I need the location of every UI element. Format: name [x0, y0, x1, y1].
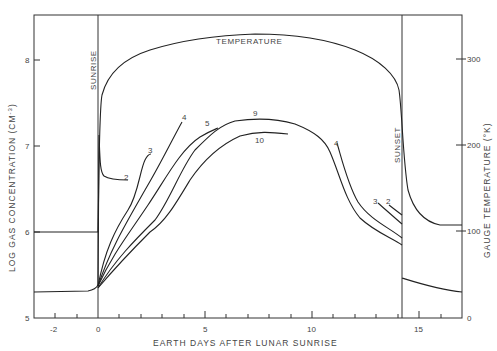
y-tick-label: 6	[25, 228, 30, 237]
curve-label-3: 3	[148, 146, 153, 155]
chart: 2 3 4 5 9 10 4 3 2 TEMPERATURE SUNRISE S…	[0, 0, 497, 351]
curve-label-5: 5	[205, 119, 210, 128]
x-axis-title: EARTH DAYS AFTER LUNAR SUNRISE	[153, 338, 338, 348]
gas-post-sunset	[402, 278, 462, 292]
y2-tick-label: 0	[467, 314, 472, 323]
y-left-axis-title: LOG GAS CONCENTRATION (CM-3)	[7, 103, 17, 272]
curve-label-4-sunset: 4	[334, 139, 339, 148]
y2-tick-label: 300	[467, 55, 481, 64]
y2-tick-label: 200	[467, 141, 481, 150]
gas-curve-10	[98, 132, 288, 288]
sunset-label: SUNSET	[393, 127, 402, 163]
temperature-label: TEMPERATURE	[216, 37, 282, 46]
y-tick-label: 7	[25, 142, 30, 151]
curve-label-2: 2	[124, 173, 129, 182]
x-tick-label: 0	[96, 325, 101, 334]
curve-label-4: 4	[182, 113, 187, 122]
y-left-ticks	[34, 60, 40, 232]
y-tick-label: 5	[25, 314, 30, 323]
x-tick-label: 5	[203, 325, 208, 334]
x-tick-label: 15	[414, 325, 423, 334]
y-right-axis-title: GAUGE TEMPERATURE (°K)	[482, 122, 492, 258]
x-ticks	[55, 311, 441, 318]
gas-curve-2	[98, 135, 128, 286]
x-tick-label: -2	[50, 325, 58, 334]
gas-curve-9	[98, 119, 402, 288]
x-tick-label: 10	[307, 325, 316, 334]
curve-label-10: 10	[255, 136, 264, 145]
y-tick-label: 8	[25, 56, 30, 65]
gas-baseline-pre-sunrise	[34, 285, 98, 292]
curve-label-2-sunset: 2	[386, 197, 391, 206]
gas-curve-2-sunset	[389, 205, 402, 215]
sunrise-label: SUNRISE	[89, 50, 98, 90]
y-right-ticks	[456, 59, 466, 231]
curve-label-9: 9	[253, 109, 258, 118]
curve-label-3-sunset: 3	[373, 197, 378, 206]
y2-tick-label: 100	[467, 227, 481, 236]
